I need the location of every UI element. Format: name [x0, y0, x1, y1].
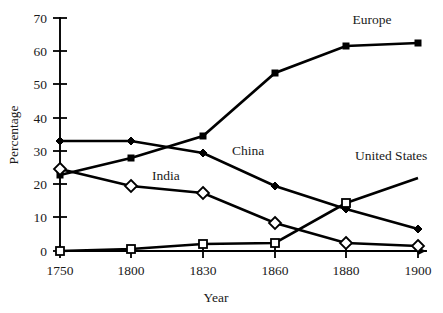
x-tick-label: 1880 — [333, 263, 360, 278]
y-tick-label: 20 — [34, 177, 48, 192]
y-tick-label: 60 — [34, 44, 48, 59]
y-tick-labels: 70 60 50 40 30 20 10 0 — [34, 11, 48, 259]
chart-canvas: 70 60 50 40 30 20 10 0 1750 1800 1830 18… — [0, 0, 443, 313]
y-tick-label: 10 — [34, 210, 48, 225]
x-tick-label: 1750 — [47, 263, 74, 278]
y-tick-label: 50 — [34, 77, 48, 92]
y-tick-label: 30 — [34, 144, 48, 159]
series-label-china: China — [232, 143, 264, 158]
x-tick-label: 1900 — [405, 263, 432, 278]
series-label-united-states: United States — [355, 148, 427, 163]
x-axis — [60, 245, 426, 258]
x-axis-title: Year — [204, 290, 229, 305]
x-tick-labels: 1750 1800 1830 1860 1880 1900 — [47, 263, 432, 278]
x-tick-label: 1800 — [118, 263, 145, 278]
y-axis-title: Percentage — [6, 105, 21, 164]
series-label-europe: Europe — [353, 12, 392, 27]
line-chart: 70 60 50 40 30 20 10 0 1750 1800 1830 18… — [0, 0, 443, 313]
x-tick-label: 1860 — [262, 263, 289, 278]
series-india: India — [54, 163, 424, 252]
y-tick-label: 40 — [34, 111, 48, 126]
series-label-india: India — [152, 168, 180, 183]
india-line — [60, 169, 418, 246]
y-tick-label: 70 — [34, 11, 48, 26]
series-united-states: United States — [56, 148, 427, 255]
y-axis — [53, 18, 67, 251]
y-tick-label: 0 — [40, 244, 47, 259]
x-tick-label: 1830 — [190, 263, 217, 278]
